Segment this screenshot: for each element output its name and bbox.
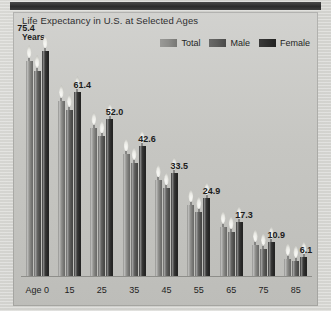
flame-icon <box>195 196 202 209</box>
flame-icon <box>292 245 299 258</box>
x-tick-7: 75 <box>247 285 279 295</box>
candle-body <box>155 180 162 276</box>
candle-female[interactable] <box>139 146 146 276</box>
bar-groups: 75.461.452.042.633.524.917.310.96.1 <box>21 42 312 276</box>
candle-male[interactable] <box>163 188 170 276</box>
x-axis-tick-labels: Age 01525354555657585 <box>21 282 312 298</box>
flame-icon <box>123 138 130 151</box>
flame-icon <box>58 85 65 98</box>
flame-icon <box>163 172 170 185</box>
candle-body <box>268 242 275 276</box>
candle-body <box>106 119 113 276</box>
flame-icon <box>228 216 235 229</box>
flame-icon <box>220 211 227 224</box>
flame-icon <box>284 243 291 256</box>
candle-female[interactable] <box>106 119 113 276</box>
candle-female[interactable] <box>268 242 275 276</box>
candle-male[interactable] <box>228 232 235 276</box>
top-header-bar <box>10 2 321 10</box>
bar-group: 61.4 <box>53 42 85 276</box>
candle-body <box>163 188 170 276</box>
candle-body <box>236 222 243 276</box>
candle-female[interactable] <box>300 257 307 276</box>
candle-body <box>252 245 259 276</box>
candle-total[interactable] <box>90 128 97 276</box>
candle-female[interactable] <box>236 222 243 276</box>
x-tick-0: Age 0 <box>21 285 53 295</box>
candle-total[interactable] <box>123 154 130 276</box>
candle-total[interactable] <box>220 227 227 276</box>
flame-icon <box>34 55 41 68</box>
x-tick-5: 55 <box>183 285 215 295</box>
flame-icon <box>26 45 33 58</box>
flame-icon <box>155 164 162 177</box>
candle-body <box>171 173 178 276</box>
candle-body <box>220 227 227 276</box>
candle-body <box>187 205 194 276</box>
page-title: Life Expectancy in U.S. at Selected Ages <box>22 15 198 26</box>
candle-female[interactable] <box>203 198 210 276</box>
bar-value-label: 75.4 <box>17 23 35 33</box>
candle-body <box>42 51 49 276</box>
candle-male[interactable] <box>66 110 73 276</box>
flame-icon <box>90 112 97 125</box>
bar-group: 75.4 <box>21 42 53 276</box>
candle-male[interactable] <box>195 212 202 276</box>
candle-total[interactable] <box>187 205 194 276</box>
flame-icon <box>131 147 138 160</box>
candle-body <box>292 261 299 276</box>
candle-body <box>74 92 81 276</box>
candle-body <box>90 128 97 276</box>
y-axis-label: Years <box>22 32 45 42</box>
candle-total[interactable] <box>252 245 259 276</box>
candle-total[interactable] <box>284 259 291 276</box>
candle-body <box>284 259 291 276</box>
bar-group: 17.3 <box>215 42 247 276</box>
candle-body <box>260 249 267 276</box>
candle-body <box>66 110 73 276</box>
candle-body <box>26 61 33 276</box>
x-axis-line <box>21 276 312 277</box>
bar-value-label: 6.1 <box>300 245 313 255</box>
candle-male[interactable] <box>34 71 41 276</box>
x-tick-2: 25 <box>86 285 118 295</box>
candle-female[interactable] <box>42 51 49 276</box>
flame-icon <box>187 189 194 202</box>
candle-body <box>203 198 210 276</box>
x-tick-4: 45 <box>150 285 182 295</box>
bar-group: 10.9 <box>247 42 279 276</box>
flame-icon <box>260 233 267 246</box>
flame-icon <box>98 120 105 133</box>
candle-body <box>98 136 105 276</box>
bar-group: 52.0 <box>86 42 118 276</box>
candle-total[interactable] <box>155 180 162 276</box>
candle-body <box>300 257 307 276</box>
candle-female[interactable] <box>171 173 178 276</box>
candle-male[interactable] <box>260 249 267 276</box>
flame-icon <box>66 94 73 107</box>
candle-total[interactable] <box>58 101 65 276</box>
x-tick-6: 65 <box>215 285 247 295</box>
flame-icon <box>252 229 259 242</box>
x-tick-1: 15 <box>53 285 85 295</box>
candle-body <box>58 101 65 276</box>
candle-body <box>34 71 41 276</box>
candle-male[interactable] <box>131 163 138 276</box>
candle-female[interactable] <box>74 92 81 276</box>
candle-body <box>139 146 146 276</box>
x-tick-8: 85 <box>280 285 312 295</box>
plot-area: 75.461.452.042.633.524.917.310.96.1 <box>21 42 312 276</box>
bar-group: 24.9 <box>183 42 215 276</box>
candle-male[interactable] <box>292 261 299 276</box>
candle-body <box>123 154 130 276</box>
candle-male[interactable] <box>98 136 105 276</box>
candle-body <box>131 163 138 276</box>
candle-body <box>228 232 235 276</box>
candle-body <box>195 212 202 276</box>
bar-group: 6.1 <box>280 42 312 276</box>
candle-total[interactable] <box>26 61 33 276</box>
bar-group: 42.6 <box>118 42 150 276</box>
x-tick-3: 35 <box>118 285 150 295</box>
bar-group: 33.5 <box>150 42 182 276</box>
chart-panel: Life Expectancy in U.S. at Selected Ages… <box>13 12 318 306</box>
